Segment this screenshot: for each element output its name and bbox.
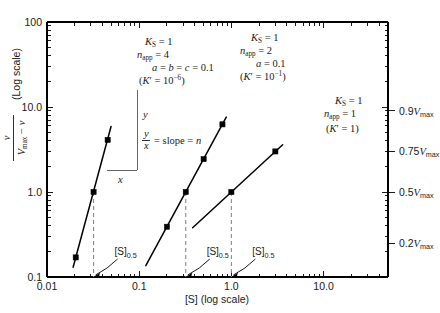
y-tick-label: 10.0 <box>22 101 43 113</box>
annotation-1-line-1: KS = 1 <box>144 36 172 49</box>
y-tick-label: 100 <box>24 16 42 28</box>
annotation-1-line-2: napp = 4 <box>137 49 170 62</box>
hill-plot-svg: 0.010.11.010.0 0.11.010.0100 0.9Vmax0.75… <box>0 0 440 313</box>
y-axis-ticks <box>47 22 53 277</box>
data-point <box>91 189 96 194</box>
y-tick-label: 1.0 <box>27 186 42 198</box>
x-axis-title-text: [S] (log scale) <box>185 293 249 305</box>
half-saturation-label: [S]0.5 <box>207 246 229 260</box>
y-axis-ticks-right <box>382 22 388 277</box>
x-axis-ticks-top <box>47 22 388 28</box>
annotation-block-3: KS = 1 napp = 1 (K′ = 1) <box>324 95 362 135</box>
data-point <box>183 189 188 194</box>
slope-formula-rest: = slope = n <box>154 135 201 146</box>
hill-plot-figure: 0.010.11.010.0 0.11.010.0100 0.9Vmax0.75… <box>0 0 440 313</box>
data-point <box>273 149 278 154</box>
data-point <box>220 122 225 127</box>
annotation-2-line-3: a = 0.1 <box>256 58 286 69</box>
annotation-1-line-3: a = b = c = 0.1 <box>152 62 214 73</box>
y-axis-denominator: Vmax − v <box>16 120 29 155</box>
plot-frame <box>47 22 388 277</box>
annotation-2-line-4: (K′ = 10−1) <box>240 70 286 83</box>
annotation-1-line-4: (K′ = 10−6) <box>139 74 185 87</box>
slope-annotation: y x y x = slope = n <box>117 109 201 185</box>
x-axis-tick-labels: 0.010.11.010.0 <box>37 280 334 292</box>
data-point <box>164 224 169 229</box>
x-tick-label: 1.0 <box>224 280 239 292</box>
right-axis-label: 0.5Vmax <box>399 186 434 200</box>
slope-triangle-legs <box>107 90 137 170</box>
right-axis-label: 0.9Vmax <box>399 105 434 119</box>
slope-formula-numerator: y <box>143 128 149 139</box>
half-saturation-leader <box>233 259 255 275</box>
y-axis-scale-note: (Log scale) <box>10 48 22 100</box>
annotation-3-line-2: napp = 1 <box>324 108 356 121</box>
y-axis-numerator: v <box>1 135 12 140</box>
annotation-3-line-3: (K′ = 1) <box>326 123 359 135</box>
half-saturation-label: [S]0.5 <box>252 246 274 260</box>
annotation-3-line-1: KS = 1 <box>334 95 362 108</box>
annotation-block-1: KS = 1 napp = 4 a = b = c = 0.1 (K′ = 10… <box>137 36 214 87</box>
half-saturation-leader <box>188 259 210 275</box>
half-saturation-leader <box>96 259 118 275</box>
right-axis-label: 0.2Vmax <box>399 237 434 251</box>
annotation-2-line-2: napp = 2 <box>240 45 272 58</box>
half-saturation-labels: [S]0.5[S]0.5[S]0.5 <box>95 246 274 276</box>
slope-triangle <box>107 90 137 170</box>
data-point <box>73 255 78 260</box>
slope-formula-denominator: x <box>143 140 149 151</box>
half-saturation-label: [S]0.5 <box>114 246 136 260</box>
y-tick-label: 0.1 <box>27 271 42 283</box>
right-axis-label: 0.75Vmax <box>399 145 440 159</box>
annotation-block-2: KS = 1 napp = 2 a = 0.1 (K′ = 10−1) <box>240 32 286 83</box>
x-axis-title: [S] (log scale) <box>185 293 249 305</box>
annotation-2-line-1: KS = 1 <box>250 32 278 45</box>
data-point <box>105 137 110 142</box>
x-tick-label: 10.0 <box>313 280 334 292</box>
slope-x-label: x <box>117 174 123 185</box>
right-axis-value-labels: 0.9Vmax0.75Vmax0.5Vmax0.2Vmax <box>388 105 440 251</box>
data-point <box>229 189 234 194</box>
x-axis-symbol: [S] <box>185 293 198 305</box>
data-point <box>201 156 206 161</box>
x-tick-label: 0.1 <box>132 280 147 292</box>
curve-4 <box>73 126 111 267</box>
slope-y-label: y <box>142 109 148 120</box>
